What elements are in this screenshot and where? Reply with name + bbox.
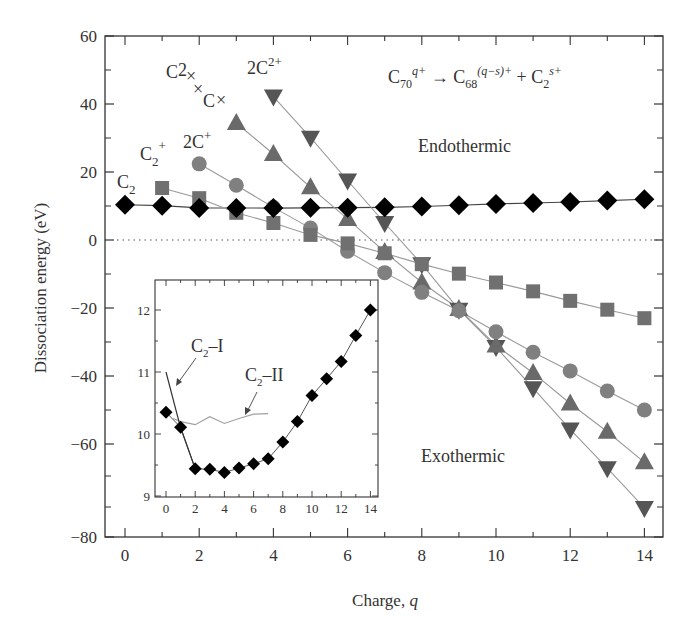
square-marker [378,246,392,260]
diamond-marker [412,196,432,216]
circle-marker [192,156,207,171]
diamond-marker [523,193,543,213]
triangle-down-marker [635,501,654,518]
diamond-marker [338,198,358,218]
square-marker [600,303,614,317]
inset-x-tick-label: 14 [364,501,378,516]
y-tick-label: 0 [89,231,98,250]
circle-marker [489,324,504,339]
triangle-up-marker [301,177,320,194]
label-c2plus-cplus: C2××C× [166,60,226,111]
triangle-up-marker [598,422,617,439]
inset-label-c2-ii: C2–II [245,365,284,388]
x-axis-title-text: Charge, [352,591,409,610]
y-tick-label: 60 [80,27,97,46]
x-tick-label: 0 [121,546,130,565]
diamond-marker [115,195,135,215]
circle-marker [229,178,244,193]
inset-x-tick-label: 6 [250,501,257,516]
inset-x-tick-label: 10 [306,501,319,516]
triangle-up-marker [264,144,283,161]
square-marker [155,181,169,195]
diamond-marker [486,194,506,214]
endothermic-label: Endothermic [418,136,511,156]
y-axis-title: Dissociation energy (eV) [31,203,50,374]
diamond-marker [301,198,321,218]
triangle-up-marker [227,113,246,130]
inset-x-tick-label: 8 [280,501,287,516]
diamond-marker [634,189,654,209]
svg-text:C: C [166,62,178,82]
label-2c-2plus: 2C2+ [247,54,282,78]
diamond-marker [560,192,580,212]
y-tick-label: −20 [70,299,97,318]
square-marker [452,267,466,281]
circle-marker [600,383,615,398]
square-marker [415,257,429,271]
circle-marker [637,403,652,418]
inset-x-tick-label: 0 [163,501,170,516]
square-marker [637,311,651,325]
x-tick-label: 6 [343,546,352,565]
chart: 6040200−20−40−60−8002468101214 C2C2+2C+2… [0,0,692,618]
diamond-marker [152,196,172,216]
triangle-up-marker [561,394,580,411]
square-marker [341,236,355,250]
x-tick-label: 10 [488,546,505,565]
inset-chart: 024681012149101112C2–IC2–II [137,280,378,516]
svg-text:×: × [193,79,203,99]
label-2c-plus: 2C+ [183,128,211,152]
label-c2: C2 [117,172,136,197]
svg-text:C: C [203,91,215,111]
circle-marker [563,363,578,378]
inset-x-tick-label: 2 [192,501,199,516]
x-tick-label: 2 [195,546,204,565]
x-tick-label: 4 [269,546,278,565]
label-c2-plus: C2+ [140,138,166,169]
inset-frame [155,280,378,497]
inset-y-tick-label: 10 [137,427,150,442]
diamond-marker [449,195,469,215]
inset-y-tick-label: 9 [144,489,151,504]
x-axis-variable: q [409,591,418,610]
circle-marker [414,285,429,300]
inset-x-tick-label: 4 [221,501,228,516]
square-marker [526,284,540,298]
circle-marker [377,265,392,280]
inset-y-tick-label: 11 [137,365,150,380]
y-tick-label: 20 [80,163,97,182]
y-tick-label: 40 [80,95,97,114]
y-tick-label: −80 [70,528,97,547]
x-tick-label: 14 [636,546,654,565]
reaction-equation: C70q+ → C68(q−s)+ + C2s+ [388,64,562,91]
inset-y-tick-label: 12 [137,303,150,318]
exothermic-label: Exothermic [421,446,505,466]
svg-text:×: × [216,90,226,110]
inset-x-tick-label: 12 [335,501,348,516]
triangle-up-marker [524,363,543,380]
square-marker [304,228,318,242]
circle-marker [451,303,466,318]
circle-marker [526,345,541,360]
y-tick-label: −60 [70,435,97,454]
x-tick-label: 8 [418,546,427,565]
x-tick-label: 12 [562,546,579,565]
diamond-marker [263,198,283,218]
y-tick-label: −40 [70,367,97,386]
triangle-up-marker [635,452,654,469]
square-marker [489,276,503,290]
diamond-marker [597,191,617,211]
square-marker [563,294,577,308]
x-axis-title: Charge, q [352,591,418,610]
